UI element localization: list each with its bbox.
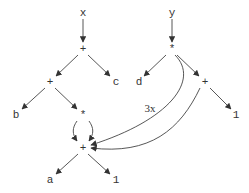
edge-times2-to-plus4 bbox=[73, 121, 77, 141]
edge-plus4-to-a bbox=[56, 154, 78, 174]
edge-plus2-to-b bbox=[22, 88, 45, 109]
edge-plus2-to-times2 bbox=[55, 88, 77, 109]
node-times2: * bbox=[80, 110, 87, 121]
edge-group bbox=[22, 19, 231, 174]
edge-plus3-to-plus4 bbox=[91, 88, 200, 149]
node-plus4: + bbox=[80, 143, 87, 154]
node-plus2: + bbox=[47, 77, 54, 88]
node-one_b: 1 bbox=[113, 175, 120, 186]
edge-plus4-to-one_b bbox=[88, 154, 110, 174]
edge-times1-to-plus3 bbox=[177, 55, 199, 76]
node-a: a bbox=[47, 175, 54, 186]
edge-times1-to-plus4 bbox=[91, 55, 184, 145]
node-c: c bbox=[113, 77, 120, 88]
edge-plus1-to-plus2 bbox=[56, 55, 78, 76]
node-one_r: 1 bbox=[233, 110, 240, 121]
node-d: d bbox=[136, 77, 143, 88]
node-y: y bbox=[169, 8, 176, 19]
expression-dag-diagram: x+y*+cd+b*1+a1 3x bbox=[0, 0, 249, 193]
node-x: x bbox=[80, 8, 87, 19]
node-plus1: + bbox=[80, 44, 87, 55]
node-plus3: + bbox=[202, 77, 209, 88]
edge-plus3-to-one_r bbox=[210, 88, 231, 109]
edge-times2-to-plus4 bbox=[89, 121, 93, 141]
edge-times1-to-d bbox=[144, 55, 166, 76]
node-times1: * bbox=[169, 44, 176, 55]
edge-plus1-to-c bbox=[88, 55, 110, 76]
edges-layer bbox=[0, 0, 249, 193]
node-b: b bbox=[13, 110, 20, 121]
edge-label: 3x bbox=[145, 103, 156, 114]
